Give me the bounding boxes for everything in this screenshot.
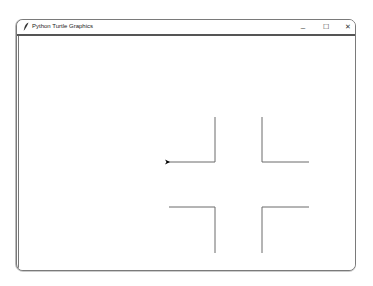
turtle-drawing xyxy=(0,0,373,286)
turtle-arrow-icon xyxy=(165,160,170,165)
